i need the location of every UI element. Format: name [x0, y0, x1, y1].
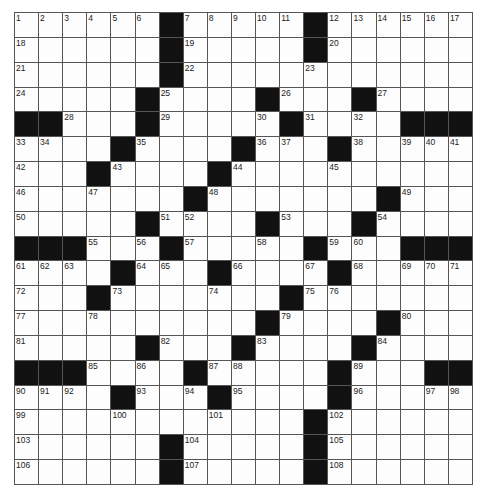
crossword-cell[interactable]	[63, 460, 86, 484]
crossword-cell[interactable]	[184, 286, 207, 310]
crossword-cell[interactable]	[136, 435, 159, 459]
crossword-cell[interactable]: 60	[352, 237, 375, 261]
crossword-cell[interactable]	[352, 311, 375, 335]
crossword-cell[interactable]	[232, 237, 255, 261]
crossword-cell[interactable]	[63, 63, 86, 87]
crossword-cell[interactable]	[208, 212, 231, 236]
crossword-cell[interactable]: 55	[87, 237, 110, 261]
crossword-cell[interactable]: 97	[425, 386, 448, 410]
crossword-cell[interactable]	[208, 237, 231, 261]
crossword-cell[interactable]	[87, 137, 110, 161]
crossword-cell[interactable]	[449, 410, 472, 434]
crossword-cell[interactable]: 107	[184, 460, 207, 484]
crossword-cell[interactable]	[63, 38, 86, 62]
crossword-cell[interactable]	[352, 162, 375, 186]
crossword-cell[interactable]: 17	[449, 13, 472, 37]
crossword-cell[interactable]	[208, 137, 231, 161]
crossword-cell[interactable]	[208, 460, 231, 484]
crossword-cell[interactable]	[352, 410, 375, 434]
crossword-cell[interactable]	[401, 286, 424, 310]
crossword-cell[interactable]: 85	[87, 361, 110, 385]
crossword-cell[interactable]	[377, 435, 400, 459]
crossword-cell[interactable]	[425, 38, 448, 62]
crossword-cell[interactable]	[256, 460, 279, 484]
crossword-cell[interactable]	[87, 261, 110, 285]
crossword-cell[interactable]: 15	[401, 13, 424, 37]
crossword-cell[interactable]: 94	[184, 386, 207, 410]
crossword-cell[interactable]	[328, 88, 351, 112]
crossword-cell[interactable]: 20	[328, 38, 351, 62]
crossword-cell[interactable]: 82	[160, 336, 183, 360]
crossword-cell[interactable]	[39, 435, 62, 459]
crossword-cell[interactable]: 40	[425, 137, 448, 161]
crossword-cell[interactable]	[425, 162, 448, 186]
crossword-cell[interactable]	[280, 410, 303, 434]
crossword-cell[interactable]	[111, 237, 134, 261]
crossword-cell[interactable]	[304, 386, 327, 410]
crossword-cell[interactable]: 92	[63, 386, 86, 410]
crossword-cell[interactable]: 13	[352, 13, 375, 37]
crossword-cell[interactable]: 81	[15, 336, 38, 360]
crossword-cell[interactable]	[160, 410, 183, 434]
crossword-cell[interactable]	[280, 261, 303, 285]
crossword-cell[interactable]	[377, 162, 400, 186]
crossword-cell[interactable]: 51	[160, 212, 183, 236]
crossword-cell[interactable]: 10	[256, 13, 279, 37]
crossword-cell[interactable]: 89	[352, 361, 375, 385]
crossword-cell[interactable]	[39, 410, 62, 434]
crossword-cell[interactable]: 99	[15, 410, 38, 434]
crossword-cell[interactable]: 43	[111, 162, 134, 186]
crossword-cell[interactable]	[280, 63, 303, 87]
crossword-cell[interactable]	[425, 435, 448, 459]
crossword-cell[interactable]	[280, 460, 303, 484]
crossword-cell[interactable]: 52	[184, 212, 207, 236]
crossword-cell[interactable]: 27	[377, 88, 400, 112]
crossword-cell[interactable]: 90	[15, 386, 38, 410]
crossword-cell[interactable]	[377, 286, 400, 310]
crossword-cell[interactable]	[377, 63, 400, 87]
crossword-cell[interactable]	[39, 162, 62, 186]
crossword-cell[interactable]	[401, 88, 424, 112]
crossword-cell[interactable]	[449, 187, 472, 211]
crossword-cell[interactable]	[425, 460, 448, 484]
crossword-cell[interactable]	[401, 38, 424, 62]
crossword-cell[interactable]: 28	[63, 112, 86, 136]
crossword-cell[interactable]: 70	[425, 261, 448, 285]
crossword-cell[interactable]: 50	[15, 212, 38, 236]
crossword-cell[interactable]	[256, 162, 279, 186]
crossword-cell[interactable]: 4	[87, 13, 110, 37]
crossword-cell[interactable]	[160, 162, 183, 186]
crossword-cell[interactable]	[184, 88, 207, 112]
crossword-cell[interactable]	[111, 212, 134, 236]
crossword-cell[interactable]	[63, 88, 86, 112]
crossword-cell[interactable]	[304, 212, 327, 236]
crossword-cell[interactable]: 33	[15, 137, 38, 161]
crossword-cell[interactable]	[184, 410, 207, 434]
crossword-cell[interactable]	[280, 386, 303, 410]
crossword-cell[interactable]: 61	[15, 261, 38, 285]
crossword-cell[interactable]	[39, 187, 62, 211]
crossword-cell[interactable]	[425, 410, 448, 434]
crossword-cell[interactable]: 38	[352, 137, 375, 161]
crossword-cell[interactable]: 100	[111, 410, 134, 434]
crossword-cell[interactable]: 18	[15, 38, 38, 62]
crossword-cell[interactable]: 19	[184, 38, 207, 62]
crossword-cell[interactable]: 78	[87, 311, 110, 335]
crossword-cell[interactable]	[280, 361, 303, 385]
crossword-cell[interactable]	[111, 187, 134, 211]
crossword-cell[interactable]	[39, 212, 62, 236]
crossword-cell[interactable]: 64	[136, 261, 159, 285]
crossword-cell[interactable]	[63, 311, 86, 335]
crossword-cell[interactable]: 44	[232, 162, 255, 186]
crossword-cell[interactable]	[136, 410, 159, 434]
crossword-cell[interactable]	[377, 38, 400, 62]
crossword-cell[interactable]	[256, 386, 279, 410]
crossword-cell[interactable]: 32	[352, 112, 375, 136]
crossword-cell[interactable]	[401, 162, 424, 186]
crossword-cell[interactable]: 98	[449, 386, 472, 410]
crossword-cell[interactable]	[449, 63, 472, 87]
crossword-cell[interactable]: 103	[15, 435, 38, 459]
crossword-cell[interactable]	[232, 435, 255, 459]
crossword-cell[interactable]: 26	[280, 88, 303, 112]
crossword-cell[interactable]: 6	[136, 13, 159, 37]
